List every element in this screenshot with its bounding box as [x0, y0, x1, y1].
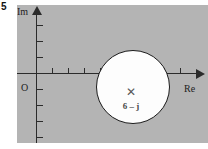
real-axis-label: Re	[184, 84, 195, 94]
plot-panel: Im Re O ✕ 6 – j	[17, 5, 208, 143]
x-axis-tick	[52, 68, 53, 74]
complex-plane-figure: 5 Im Re O ✕ 6 – j	[0, 0, 208, 149]
imaginary-axis-arrow-icon	[32, 6, 42, 15]
imaginary-axis-line	[36, 13, 37, 143]
y-axis-tick	[37, 137, 43, 138]
pole-marker-icon: ✕	[125, 87, 136, 98]
y-axis-tick	[37, 57, 43, 58]
y-axis-tick	[37, 41, 43, 42]
real-axis-arrow-icon	[196, 69, 205, 79]
y-axis-tick	[37, 25, 43, 26]
x-axis-tick	[180, 68, 181, 74]
y-axis-tick	[37, 105, 43, 106]
origin-label: O	[21, 83, 28, 93]
pole-value-label: 6 – j	[114, 101, 148, 111]
y-axis-tick	[37, 89, 43, 90]
x-axis-tick	[84, 68, 85, 74]
imaginary-axis-label: Im	[17, 7, 28, 17]
figure-number: 5	[1, 2, 7, 12]
y-axis-tick	[37, 121, 43, 122]
x-axis-tick	[68, 68, 69, 74]
